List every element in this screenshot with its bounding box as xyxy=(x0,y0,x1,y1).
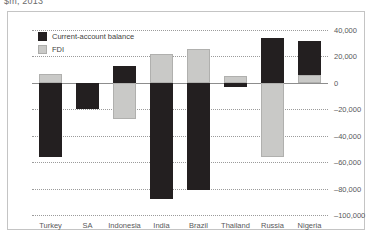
bar-group xyxy=(39,30,62,215)
x-axis-label: Turkey xyxy=(39,221,62,230)
bar-group xyxy=(298,30,321,215)
y-axis-tick-label: –100,000 xyxy=(334,211,365,220)
figure-caption: $m, 2013 xyxy=(4,0,43,6)
plot-area: 40,00020,0000–20,000–40,000–60,000–80,00… xyxy=(32,30,328,215)
y-axis-tick-label: –80,000 xyxy=(334,184,361,193)
x-axis-label: SA xyxy=(82,221,92,230)
bar-segment-current-account-balance xyxy=(298,41,321,75)
legend-label-fdi: FDI xyxy=(52,45,64,54)
bar-segment-fdi xyxy=(113,83,136,119)
x-axis-label: India xyxy=(153,221,169,230)
x-axis-label: Brazil xyxy=(189,221,208,230)
x-axis-label: Indonesia xyxy=(108,221,141,230)
bar-segment-current-account-balance xyxy=(261,38,284,83)
legend-swatch-fdi-icon xyxy=(38,45,47,54)
bar-group xyxy=(76,30,99,215)
y-axis-tick-label: –40,000 xyxy=(334,131,361,140)
bar-group xyxy=(150,30,173,215)
bar-segment-current-account-balance xyxy=(76,83,99,109)
bar-group xyxy=(187,30,210,215)
gridline xyxy=(32,215,328,216)
bar-segment-fdi xyxy=(261,83,284,157)
bar-segment-current-account-balance xyxy=(150,83,173,199)
bar-segment-fdi xyxy=(298,75,321,83)
y-axis-tick-label: 0 xyxy=(334,78,338,87)
legend-label-cab: Current-account balance xyxy=(52,32,134,41)
legend-item-fdi: FDI xyxy=(38,44,134,55)
bar-group xyxy=(113,30,136,215)
bar-segment-fdi xyxy=(39,74,62,83)
bar-group xyxy=(261,30,284,215)
bar-segment-current-account-balance xyxy=(187,83,210,190)
bar-segment-fdi xyxy=(224,76,247,83)
legend-item-cab: Current-account balance xyxy=(38,31,134,42)
bar-segment-fdi xyxy=(187,49,210,83)
y-axis-tick-label: 40,000 xyxy=(334,26,357,35)
y-axis-tick-label: –60,000 xyxy=(334,158,361,167)
y-axis-tick-label: 20,000 xyxy=(334,52,357,61)
bar-series-group xyxy=(32,30,328,215)
legend-swatch-cab-icon xyxy=(38,32,47,41)
bar-segment-current-account-balance xyxy=(113,66,136,83)
chart-frame: 40,00020,0000–20,000–40,000–60,000–80,00… xyxy=(7,11,365,230)
bar-segment-fdi xyxy=(150,54,173,83)
x-axis-label: Russia xyxy=(261,221,284,230)
chart-figure: $m, 2013 40,00020,0000–20,000–40,000–60,… xyxy=(0,0,373,239)
bar-segment-current-account-balance xyxy=(39,83,62,157)
x-axis-label: Thailand xyxy=(221,221,250,230)
bar-segment-current-account-balance xyxy=(224,83,247,87)
y-axis-tick-label: –20,000 xyxy=(334,105,361,114)
legend: Current-account balance FDI xyxy=(38,31,134,57)
x-axis-label: Nigeria xyxy=(298,221,322,230)
bar-group xyxy=(224,30,247,215)
